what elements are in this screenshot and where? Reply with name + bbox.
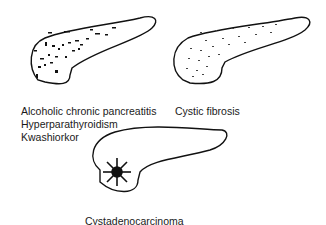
pancreas-outline-1 xyxy=(31,17,156,84)
pancreas-outline-2 xyxy=(174,17,310,83)
panel1-label-1: Alcoholic chronic pancreatitis xyxy=(21,105,156,118)
calcification-specks-1 xyxy=(34,27,116,78)
panel1-label-2: Hyperparathyroidism xyxy=(21,118,118,131)
panel2-label: Cystic fibrosis xyxy=(175,105,240,118)
panel1-label-3: Kwashiorkor xyxy=(21,131,79,144)
pancreas-outline-3 xyxy=(93,127,227,192)
stipple-specks-2 xyxy=(186,24,277,77)
sunburst-calcification-3 xyxy=(103,158,131,186)
panel3-label: Cystadenocarcinoma xyxy=(85,215,184,225)
